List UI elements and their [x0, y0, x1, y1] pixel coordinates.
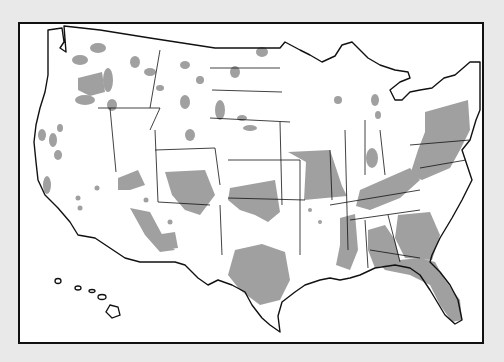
region-utah [118, 170, 145, 190]
hawaii-inset [55, 279, 120, 319]
hawaii-maui [98, 295, 106, 300]
region-texas [228, 244, 290, 305]
hawaii-oahu [75, 286, 81, 290]
region-tennessee [356, 168, 420, 210]
region-oregon [78, 72, 105, 96]
region-appalachia [410, 100, 470, 180]
region-florida [378, 258, 462, 322]
us-map [0, 0, 504, 362]
hawaii-molokai [89, 290, 95, 293]
region-oklahoma [228, 180, 280, 222]
region-colorado [165, 170, 215, 215]
hawaii-big-island [106, 305, 120, 318]
hawaii-kauai [55, 279, 61, 284]
region-missouri [288, 150, 347, 200]
shaded-regions [38, 43, 470, 322]
